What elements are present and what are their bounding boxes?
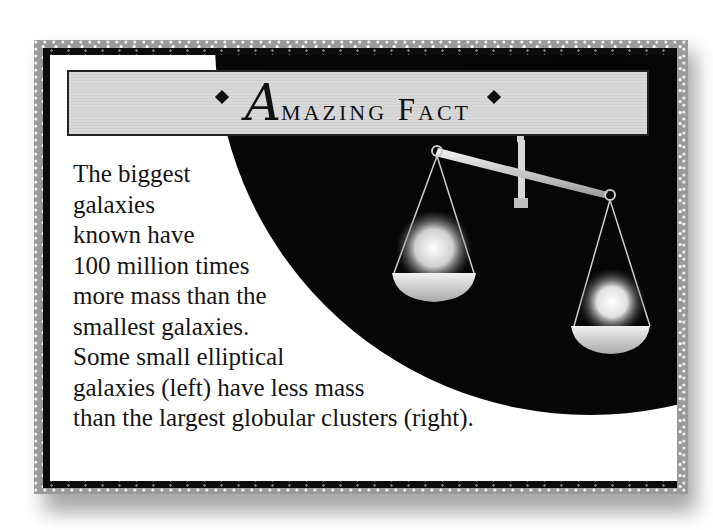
fact-line: galaxies (left) have less mass	[73, 373, 474, 404]
title-initial: A	[245, 74, 281, 132]
fact-line: The biggest	[73, 159, 474, 190]
fact-line: more mass than the	[73, 281, 474, 312]
title-text: mazing Fact	[281, 92, 471, 127]
fact-line: smallest galaxies.	[73, 312, 474, 343]
fact-line: known have	[73, 220, 474, 251]
card-title: Amazing Fact	[245, 74, 471, 132]
diamond-ornament-icon	[487, 90, 501, 104]
fact-text: The biggest galaxies known have 100 mill…	[73, 159, 474, 434]
fact-line: 100 million times	[73, 251, 474, 282]
fact-card: Amazing Fact The biggest galaxies known …	[50, 55, 677, 481]
fact-line: than the largest globular clusters (righ…	[73, 403, 474, 434]
diamond-ornament-icon	[215, 90, 229, 104]
fact-line: Some small elliptical	[73, 342, 474, 373]
title-banner: Amazing Fact	[67, 70, 649, 136]
fact-line: galaxies	[73, 190, 474, 221]
